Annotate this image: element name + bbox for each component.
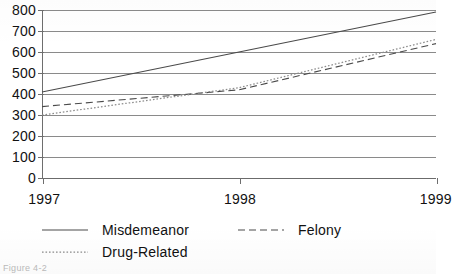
x-tick-1997	[43, 178, 44, 184]
y-axis-label-500: 500	[12, 66, 36, 80]
x-axis-label-1999: 1999	[420, 191, 452, 207]
legend-swatch-felony	[238, 225, 284, 235]
legend-swatch-drug-related	[42, 247, 88, 257]
y-axis-label-600: 600	[12, 45, 36, 59]
legend-entry-drug-related[interactable]: Drug-Related	[42, 244, 238, 260]
series-line-drug-related	[42, 39, 436, 115]
data-series-group	[42, 10, 436, 178]
legend-row-2: Drug-Related	[42, 241, 436, 263]
x-tick-1998	[240, 178, 241, 184]
y-axis-label-800: 800	[12, 3, 36, 17]
y-axis-label-300: 300	[12, 108, 36, 122]
y-axis-label-100: 100	[12, 150, 36, 164]
legend-label-felony: Felony	[298, 222, 341, 238]
y-axis-label-400: 400	[12, 87, 36, 101]
x-tick-1999	[437, 178, 438, 184]
series-line-misdemeanor	[42, 12, 436, 92]
y-axis-label-0: 0	[28, 171, 36, 185]
figure-caption: Figure 4-2	[3, 263, 47, 274]
legend-row-1: MisdemeanorFelony	[42, 219, 436, 241]
y-axis-label-200: 200	[12, 129, 36, 143]
x-axis-label-1998: 1998	[224, 191, 256, 207]
legend-label-misdemeanor: Misdemeanor	[102, 222, 189, 238]
legend-entry-felony[interactable]: Felony	[238, 222, 398, 238]
x-axis-label-1997: 1997	[28, 191, 60, 207]
series-line-felony	[42, 44, 436, 107]
legend-entry-misdemeanor[interactable]: Misdemeanor	[42, 222, 238, 238]
y-axis-label-700: 700	[12, 24, 36, 38]
legend-swatch-misdemeanor	[42, 225, 88, 235]
legend-label-drug-related: Drug-Related	[102, 244, 188, 260]
chart-legend: MisdemeanorFelonyDrug-Related	[42, 219, 436, 263]
